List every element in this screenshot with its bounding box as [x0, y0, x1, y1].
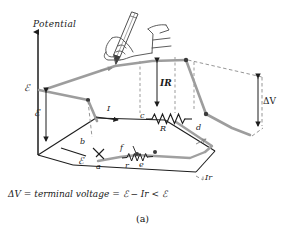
node-label-c: c	[140, 112, 144, 120]
axis-label-potential: Potential	[33, 20, 76, 29]
figure-caption: (a)	[136, 214, 149, 224]
terminal-voltage-label: ΔV	[263, 97, 276, 106]
node-label-d: d	[196, 124, 201, 132]
internal-resistance-label: r	[125, 162, 129, 170]
node-f-lead	[133, 146, 136, 153]
emf-source-label: ℰ	[78, 156, 84, 166]
external-resistance-label: R	[160, 125, 166, 133]
ir-drop-label: IR	[160, 79, 172, 88]
node-dot-e	[153, 150, 157, 154]
node-label-f: f	[120, 144, 123, 152]
terminal-voltage-equation: ΔV = terminal voltage = ℰ − Ir < ℰ	[8, 190, 167, 199]
node-dot-d	[204, 112, 208, 116]
potential-diagram-figure: Potential ℰ ℰ ℰ b a f r e I c R d IR ΔV …	[0, 0, 286, 233]
current-label: I	[107, 105, 110, 113]
potential-surface-walls	[88, 57, 194, 118]
emf-rise-label: ℰ	[34, 108, 40, 118]
circuit-loop-base	[98, 122, 212, 161]
hand-with-pencil-icon	[104, 12, 171, 64]
internal-drop-label: Ir	[205, 174, 212, 182]
node-label-b: b	[80, 138, 85, 146]
node-label-e: e	[139, 161, 144, 169]
emf-axis-label: ℰ	[24, 83, 30, 93]
potential-curve	[39, 60, 250, 135]
node-label-a: a	[96, 163, 101, 171]
node-dot-c-top	[184, 58, 188, 62]
